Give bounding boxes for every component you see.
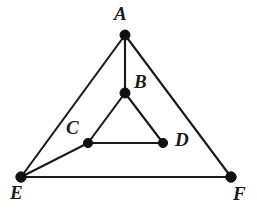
vertex-point-a xyxy=(120,30,130,40)
edge-B-C xyxy=(88,93,125,143)
edge-B-D xyxy=(125,93,163,143)
vertex-label-e: E xyxy=(10,183,23,202)
vertex-point-f xyxy=(226,172,236,182)
vertex-point-d xyxy=(158,138,167,147)
vertex-label-d: D xyxy=(175,130,189,149)
vertex-label-a: A xyxy=(114,4,127,23)
edge-A-E xyxy=(21,35,125,177)
geometry-canvas xyxy=(0,0,257,214)
edges-group xyxy=(21,35,231,177)
edge-A-F xyxy=(125,35,231,177)
vertex-point-b xyxy=(120,88,130,98)
geometry-figure: ABCDEF xyxy=(0,0,257,214)
vertex-label-c: C xyxy=(66,118,79,137)
vertex-label-f: F xyxy=(233,184,246,203)
vertex-label-b: B xyxy=(134,72,147,91)
vertex-point-e xyxy=(16,172,26,182)
edge-E-C xyxy=(21,143,88,177)
vertex-point-c xyxy=(83,138,92,147)
